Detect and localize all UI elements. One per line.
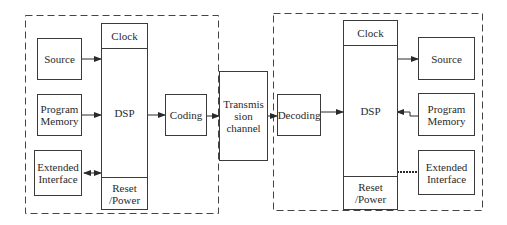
dsp-block-tx: Clock DSP Reset /Power	[101, 23, 148, 210]
extended-interface-label: Extended Interface	[426, 161, 468, 185]
decoding-label: Decoding	[278, 109, 321, 121]
source-block-rx: Source	[418, 37, 475, 80]
reset-power-label: Reset /Power	[355, 181, 386, 205]
reset-power-segment: Reset /Power	[102, 177, 147, 209]
clock-segment: Clock	[102, 24, 147, 49]
clock-label: Clock	[111, 30, 137, 42]
dsp-core-segment: DSP	[102, 48, 147, 178]
reset-power-label: Reset /Power	[109, 182, 140, 206]
reset-power-segment: Reset /Power	[344, 176, 397, 209]
clock-label: Clock	[357, 27, 383, 39]
extended-interface-block-rx: Extended Interface	[418, 150, 475, 195]
coding-block: Coding	[165, 94, 207, 136]
dsp-core-segment: DSP	[344, 45, 397, 177]
arrow-memory-to-dsp-rx	[397, 112, 418, 116]
program-memory-block-rx: Program Memory	[418, 93, 475, 136]
dsp-label: DSP	[114, 107, 134, 119]
program-memory-block-tx: Program Memory	[37, 94, 82, 136]
transmission-channel-block: Transmis sion channel	[219, 71, 268, 161]
coding-label: Coding	[170, 109, 202, 121]
clock-segment: Clock	[344, 21, 397, 46]
decoding-block: Decoding	[277, 94, 321, 136]
transmission-channel-label: Transmis sion channel	[223, 98, 264, 134]
source-block-tx: Source	[37, 38, 82, 80]
dsp-label: DSP	[360, 105, 380, 117]
source-label: Source	[431, 53, 462, 65]
source-label: Source	[44, 53, 75, 65]
dsp-communication-diagram: Source Program Memory Extended Interface…	[0, 0, 507, 225]
dsp-block-rx: Clock DSP Reset /Power	[343, 20, 398, 210]
extended-interface-block-tx: Extended Interface	[34, 150, 82, 196]
extended-interface-label: Extended Interface	[37, 161, 79, 185]
program-memory-label: Program Memory	[41, 103, 79, 127]
program-memory-label: Program Memory	[428, 103, 466, 127]
